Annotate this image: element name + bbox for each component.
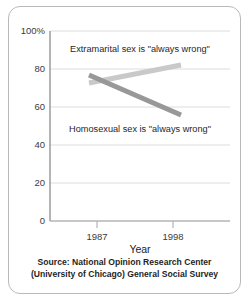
source-caption-line-1: Source: National Opinion Research Center [9,257,240,269]
chart-figure-panel: 100% 80 60 40 20 0 Extramarital sex is "… [8,6,241,294]
x-tick-label-1998: 1998 [162,231,183,242]
y-tick-label-100: 100% [21,25,46,36]
y-tick-label-20: 20 [34,177,45,188]
line-chart: 100% 80 60 40 20 0 Extramarital sex is "… [9,7,242,253]
y-tick-label-40: 40 [34,139,45,150]
series-label-homosexual: Homosexual sex is "always wrong" [69,124,211,134]
source-caption: Source: National Opinion Research Center… [9,257,240,280]
y-tick-label-0: 0 [40,215,45,226]
x-tick-label-1987: 1987 [86,231,107,242]
y-tick-label-80: 80 [34,63,45,74]
x-axis-title: Year [129,243,151,253]
y-tick-label-60: 60 [34,101,45,112]
plot-area-wrapper: 100% 80 60 40 20 0 Extramarital sex is "… [9,7,240,253]
series-line-homosexual [89,75,181,115]
series-label-extramarital: Extramarital sex is "always wrong" [70,44,210,54]
source-caption-line-2: (University of Chicago) General Social S… [9,269,240,281]
